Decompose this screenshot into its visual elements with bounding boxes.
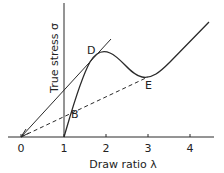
- x-tick-0: 0: [18, 142, 25, 155]
- point-label-e: E: [145, 79, 152, 92]
- x-tick-1: 1: [61, 142, 68, 155]
- x-tick-4: 4: [187, 142, 194, 155]
- x-tick-2: 2: [103, 142, 110, 155]
- point-label-b: B: [71, 108, 79, 121]
- x-axis-label: Draw ratio λ: [89, 158, 157, 171]
- stress-curve: [64, 22, 209, 137]
- x-tick-3: 3: [145, 142, 152, 155]
- y-axis-label: True stress σ: [48, 23, 61, 94]
- tangent-line-min: [21, 77, 148, 137]
- stress-draw-ratio-diagram: 0 1 2 3 4 Draw ratio λ True stress σ D E…: [0, 0, 224, 173]
- point-label-d: D: [87, 44, 95, 57]
